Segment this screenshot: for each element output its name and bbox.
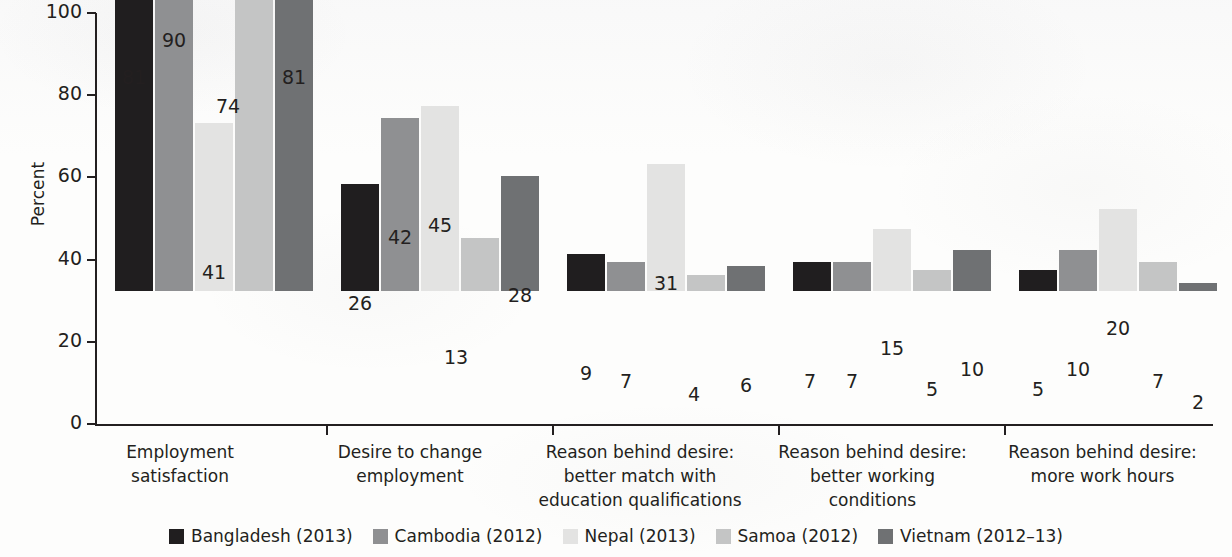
category-label-desire-to-change-employment: Desire to change employment — [285, 440, 535, 488]
bar-rect — [873, 229, 911, 291]
chart-legend: Bangladesh (2013)Cambodia (2012)Nepal (2… — [0, 526, 1232, 546]
bar-value-label: 28 — [485, 284, 555, 306]
bar[interactable] — [567, 254, 605, 291]
bar[interactable] — [1179, 283, 1217, 291]
bar-rect — [381, 118, 419, 291]
bar[interactable] — [235, 0, 273, 291]
bar-rect — [235, 0, 273, 291]
x-axis-group-tick — [326, 426, 328, 435]
bar-rect — [1139, 262, 1177, 291]
bar-value-label: 90 — [139, 29, 209, 51]
x-axis-group-tick — [778, 426, 780, 435]
category-label-line: satisfaction — [60, 464, 300, 488]
bar-value-label: 74 — [193, 95, 263, 117]
bar[interactable] — [1019, 270, 1057, 291]
bar[interactable] — [381, 118, 419, 291]
bar[interactable] — [873, 229, 911, 291]
x-axis-line — [95, 424, 1213, 426]
bar-value-label: 7 — [817, 370, 887, 392]
bar-rect — [1179, 283, 1217, 291]
bar-rect — [833, 262, 871, 291]
category-label-reason-working-conditions: Reason behind desire: better working con… — [745, 440, 1000, 512]
category-label-line: better working — [745, 464, 1000, 488]
bar-rect — [727, 266, 765, 291]
legend-swatch-icon — [563, 529, 578, 544]
category-label-line: more work hours — [975, 464, 1230, 488]
x-axis-group-tick — [552, 426, 554, 435]
bar-rect — [421, 106, 459, 291]
bar-rect — [275, 0, 313, 291]
bar-rect — [567, 254, 605, 291]
category-label-line: Employment — [60, 440, 300, 464]
bar[interactable] — [913, 270, 951, 291]
category-label-line: Reason behind desire: — [510, 440, 770, 464]
category-label-line: Reason behind desire: — [975, 440, 1230, 464]
bar-value-label: 81 — [99, 66, 169, 88]
legend-swatch-icon — [169, 529, 184, 544]
bar-value-label: 6 — [711, 374, 781, 396]
bar-value-label: 81 — [259, 66, 329, 88]
bar-value-label: 45 — [405, 214, 475, 236]
bar[interactable] — [833, 262, 871, 291]
grouped-bar-chart: Percent 020406080100 Employment satisfac… — [0, 0, 1232, 557]
legend-swatch-icon — [716, 529, 731, 544]
category-label-employment-satisfaction: Employment satisfaction — [60, 440, 300, 488]
legend-item-label: Nepal (2013) — [585, 526, 696, 546]
x-axis-group-tick — [1004, 426, 1006, 435]
legend-item-label: Vietnam (2012–13) — [900, 526, 1063, 546]
category-label-line: employment — [285, 464, 535, 488]
legend-item-label: Bangladesh (2013) — [191, 526, 353, 546]
category-label-reason-more-work-hours: Reason behind desire: more work hours — [975, 440, 1230, 488]
legend-item[interactable]: Samoa (2012) — [716, 526, 859, 546]
legend-item-label: Cambodia (2012) — [395, 526, 543, 546]
legend-item[interactable]: Nepal (2013) — [563, 526, 696, 546]
legend-item-label: Samoa (2012) — [738, 526, 859, 546]
category-label-line: better match with — [510, 464, 770, 488]
bar-value-label: 31 — [631, 272, 701, 294]
category-label-line: education qualifications — [510, 488, 770, 512]
bar-value-label: 20 — [1083, 317, 1153, 339]
bar-value-label: 5 — [1003, 378, 1073, 400]
legend-swatch-icon — [373, 529, 388, 544]
bar-value-label: 13 — [421, 346, 491, 368]
bar[interactable] — [275, 0, 313, 291]
chart-page: Percent 020406080100 Employment satisfac… — [0, 0, 1232, 557]
bar-rect — [1099, 209, 1137, 291]
category-label-line: Desire to change — [285, 440, 535, 464]
legend-item[interactable]: Bangladesh (2013) — [169, 526, 353, 546]
bar-value-label: 5 — [897, 378, 967, 400]
bar[interactable] — [501, 176, 539, 291]
bar-value-label: 2 — [1163, 391, 1232, 413]
bar[interactable] — [1059, 250, 1097, 291]
bar-value-label: 15 — [857, 337, 927, 359]
bar-rect — [501, 176, 539, 291]
bar-rect — [1019, 270, 1057, 291]
bar-value-label: 41 — [179, 261, 249, 283]
bar-rect — [953, 250, 991, 291]
bar-rect — [1059, 250, 1097, 291]
legend-swatch-icon — [878, 529, 893, 544]
bar-value-label: 7 — [1123, 370, 1193, 392]
bar[interactable] — [953, 250, 991, 291]
category-label-line: Reason behind desire: — [745, 440, 1000, 464]
bar[interactable] — [727, 266, 765, 291]
bar-rect — [793, 262, 831, 291]
bar-rect — [913, 270, 951, 291]
bar[interactable] — [421, 106, 459, 291]
bar-value-label: 10 — [1043, 358, 1113, 380]
bar-value-label: 26 — [325, 292, 395, 314]
bar[interactable] — [1139, 262, 1177, 291]
category-label-line: conditions — [745, 488, 1000, 512]
category-label-reason-education-match: Reason behind desire: better match with … — [510, 440, 770, 512]
bar-value-label: 7 — [591, 370, 661, 392]
bar[interactable] — [1099, 209, 1137, 291]
bar[interactable] — [793, 262, 831, 291]
legend-item[interactable]: Vietnam (2012–13) — [878, 526, 1063, 546]
bar-value-label: 10 — [937, 358, 1007, 380]
legend-item[interactable]: Cambodia (2012) — [373, 526, 543, 546]
